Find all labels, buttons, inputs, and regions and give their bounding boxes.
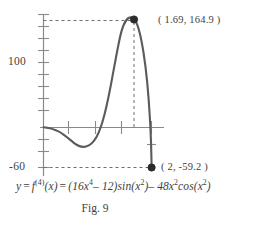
function-curve	[44, 17, 152, 167]
y-tick-label-minus60: -60	[9, 160, 25, 172]
equation-minus-48x: – 48x	[148, 180, 174, 192]
annotation-endpoint: ( 2, -59.2 )	[161, 161, 208, 172]
figure-container: 100 -60 ( 1.69, 164.9 ) ( 2, -59.2 ) y=f…	[0, 0, 274, 227]
figure-caption: Fig. 9	[0, 202, 190, 214]
equation-close-cos: )	[207, 180, 211, 192]
marker-maximum	[130, 16, 137, 23]
equation-cos: cos(x	[178, 180, 203, 192]
y-tick-label-100: 100	[8, 55, 26, 67]
plot-canvas	[0, 0, 274, 227]
marker-endpoint	[148, 164, 155, 171]
equation-minus-12-sin: – 12)sin(x	[93, 180, 140, 192]
annotation-maximum: ( 1.69, 164.9 )	[158, 14, 221, 25]
equation: y=f(4)(x)=(16x4– 12)sin(x2)– 48x2cos(x2)	[16, 180, 268, 192]
equation-equals-1: =	[21, 180, 32, 192]
equation-order: (4)	[35, 178, 44, 187]
equation-equals-2: =	[58, 180, 69, 192]
equation-arg: (x)	[45, 180, 58, 192]
equation-term-16x: (16x	[68, 180, 89, 192]
